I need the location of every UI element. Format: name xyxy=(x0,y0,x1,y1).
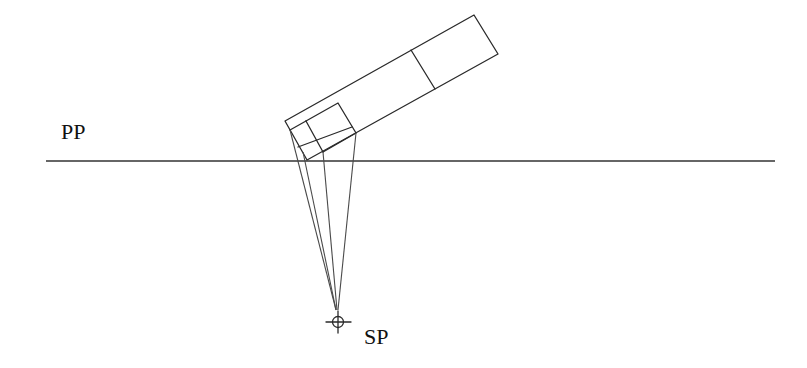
station-point-marker-icon xyxy=(326,311,351,333)
projector-line xyxy=(303,152,336,310)
small-box-left-edge xyxy=(306,121,323,152)
projector-line xyxy=(338,133,356,310)
corner-inner-line xyxy=(290,121,306,130)
projector-lines xyxy=(290,130,356,310)
rectangle-divider xyxy=(411,50,435,89)
station-point-label: SP xyxy=(364,324,388,349)
picture-plane-label: PP xyxy=(61,119,85,144)
small-box xyxy=(306,103,356,152)
outer-rectangle xyxy=(285,15,498,160)
object-plan xyxy=(285,15,498,160)
perspective-diagram: PP SP xyxy=(0,0,807,368)
small-box-inner-line xyxy=(298,127,352,147)
